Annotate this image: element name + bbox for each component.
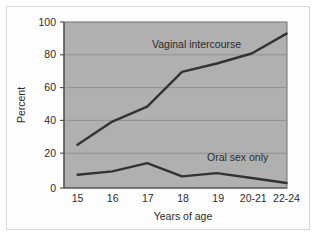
x-tick-label-16: 16: [107, 192, 119, 204]
y-axis-title: Percent: [15, 87, 27, 123]
line-chart: 100 80 60 40 20 0 15 16 17 18 19 20-21 2…: [0, 0, 316, 236]
x-tick-label-17: 17: [142, 192, 154, 204]
chart-figure: 100 80 60 40 20 0 15 16 17 18 19 20-21 2…: [0, 0, 316, 236]
y-tick-label-80: 80: [44, 48, 56, 60]
x-tick-label-22-24: 22-24: [273, 192, 300, 204]
y-tick-label-60: 60: [44, 81, 56, 93]
x-tick-label-15: 15: [72, 192, 84, 204]
series-label-vaginal-intercourse: Vaginal intercourse: [152, 38, 241, 50]
series-label-oral-sex-only: Oral sex only: [207, 151, 269, 163]
x-tick-label-20-21: 20-21: [240, 192, 267, 204]
y-tick-label-0: 0: [50, 182, 56, 194]
x-tick-label-19: 19: [212, 192, 224, 204]
x-tick-label-18: 18: [177, 192, 189, 204]
y-tick-label-100: 100: [38, 16, 56, 28]
x-axis-title: Years of age: [154, 210, 213, 222]
y-tick-label-40: 40: [44, 114, 56, 126]
y-tick-label-20: 20: [44, 147, 56, 159]
